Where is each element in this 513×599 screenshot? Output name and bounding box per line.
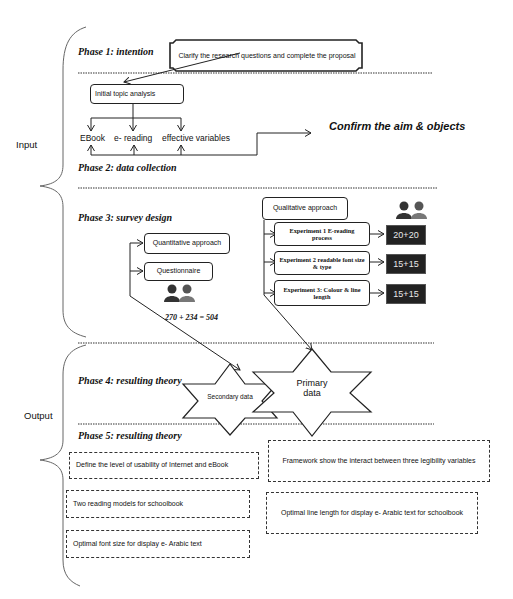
people-icon-quantitative	[164, 285, 195, 303]
variable-ebook: EBook	[80, 133, 105, 143]
experiment-3-box: Experiment 3: Colour & line length	[274, 280, 370, 306]
secondary-data-label: Secondary data	[205, 393, 255, 400]
initial-topic-analysis-box: Initial topic analysis	[90, 84, 184, 104]
outcome-font-size: Optimal font size for display e- Arabic …	[66, 530, 250, 558]
phase-4-heading: Phase 4: resulting theory	[78, 375, 182, 386]
qualitative-approach-box: Qualitative approach	[262, 197, 348, 220]
confirm-aim-objects: Confirm the aim & objects	[329, 120, 465, 132]
phase-3-heading: Phase 3: survey design	[78, 212, 172, 223]
questionnaire-box: Questionnaire	[144, 262, 213, 281]
phase-1-heading: Phase 1: intention	[78, 46, 154, 57]
experiment-1-count: 20+20	[386, 225, 426, 245]
outcome-reading-models: Two reading models for schoolbook	[66, 490, 250, 518]
phase-5-heading: Phase 5: resulting theory	[78, 430, 182, 441]
people-icon-qualitative	[396, 202, 427, 220]
outcome-usability: Define the level of usability of Interne…	[69, 452, 259, 479]
experiment-3-count: 15+15	[386, 284, 426, 304]
outcome-line-length: Optimal line length for display e- Arabi…	[266, 492, 478, 534]
quantitative-approach-box: Quantitative approach	[144, 233, 230, 254]
experiment-2-box: Experiment 2 readable font size & type	[274, 251, 370, 275]
input-label: Input	[16, 139, 37, 150]
phase-2-heading: Phase 2: data collection	[78, 162, 177, 173]
variable-e-reading: e- reading	[114, 133, 152, 143]
experiment-2-count: 15+15	[386, 254, 426, 274]
experiment-1-box: Experiment 1 E-reading process	[274, 222, 370, 246]
outcome-framework: Framework show the interact between thre…	[268, 440, 490, 482]
primary-data-label: Primary data	[287, 379, 337, 399]
output-label: Output	[24, 410, 53, 421]
phase-1-callout: Clarify the research questions and compl…	[178, 43, 356, 69]
sample-size-formula: 270 + 234 = 504	[165, 313, 218, 322]
variable-effective-variables: effective variables	[162, 133, 230, 143]
